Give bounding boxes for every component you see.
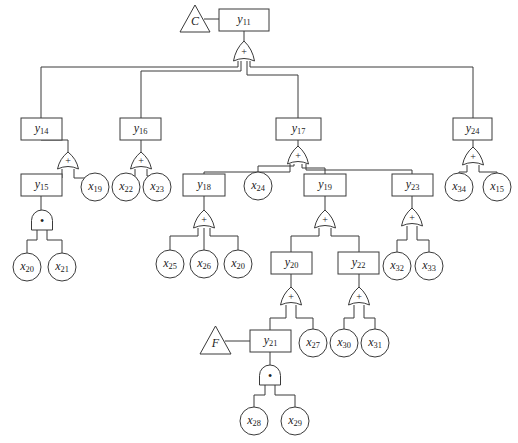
plus-symbol-icon: + xyxy=(288,291,294,302)
connector-line xyxy=(47,230,62,253)
event-box-y19: y19 xyxy=(304,174,346,196)
event-box-y22: y22 xyxy=(338,252,379,274)
basic-event-x24: x24 xyxy=(244,172,272,200)
transfer-label: F xyxy=(211,336,220,350)
connector-line xyxy=(302,164,325,174)
transfer-label: C xyxy=(191,14,200,28)
connector-line xyxy=(170,228,198,250)
plus-symbol-icon: + xyxy=(201,214,207,225)
transfer-triangle-F: F xyxy=(200,326,250,354)
basic-event-x23: x23 xyxy=(143,173,171,201)
and-gate-g21: • xyxy=(260,365,281,385)
or-gate-g18: + xyxy=(194,210,215,228)
connector-line xyxy=(210,228,238,250)
basic-event-x29: x29 xyxy=(281,407,309,435)
basic-event-x21: x21 xyxy=(48,253,76,281)
event-box-y15: y15 xyxy=(21,174,62,196)
event-box-y18: y18 xyxy=(183,174,225,196)
connector-line xyxy=(344,305,354,329)
basic-event-x22: x22 xyxy=(112,173,140,201)
or-gate-g17: + xyxy=(288,146,309,164)
or-gate-g19: + xyxy=(315,210,336,228)
connector-line xyxy=(459,165,467,173)
event-box-y14: y14 xyxy=(21,118,62,140)
plus-symbol-icon: + xyxy=(356,291,362,302)
basic-event-x31: x31 xyxy=(361,329,389,357)
basic-events: x19x22x23x20x21x24x25x26x20x32x33x34x15x… xyxy=(13,172,511,435)
basic-event-x20b: x20 xyxy=(224,250,252,278)
or-gate-g20: + xyxy=(281,287,302,305)
transfer-triangle-C: C xyxy=(180,5,219,32)
connector-line xyxy=(296,305,313,329)
or-gate-g14: + xyxy=(58,152,79,169)
connector-line xyxy=(417,226,429,252)
basic-event-x15: x15 xyxy=(483,173,511,201)
connector-line xyxy=(27,230,37,253)
basic-event-x32: x32 xyxy=(383,252,411,280)
basic-event-x27: x27 xyxy=(299,329,327,357)
event-box-y17: y17 xyxy=(276,118,321,140)
connector-line xyxy=(479,165,497,173)
plus-symbol-icon: + xyxy=(409,212,415,223)
connector-line xyxy=(397,226,407,252)
event-box-y23: y23 xyxy=(392,174,433,196)
basic-event-x26: x26 xyxy=(190,250,218,278)
plus-symbol-icon: + xyxy=(138,155,144,166)
or-gate-g11: + xyxy=(234,41,255,61)
plus-symbol-icon: + xyxy=(295,150,301,161)
connector-line xyxy=(291,228,319,252)
plus-symbol-icon: + xyxy=(241,46,247,57)
connector-line xyxy=(258,164,294,172)
connector-line xyxy=(250,61,473,118)
connector-line xyxy=(331,228,359,252)
connector-line xyxy=(306,164,412,174)
event-box-y24: y24 xyxy=(453,118,492,140)
or-gate-g23: + xyxy=(402,208,423,226)
basic-event-x19: x19 xyxy=(81,173,109,201)
plus-symbol-icon: + xyxy=(65,155,71,166)
connector-line xyxy=(41,61,238,118)
or-gate-g22: + xyxy=(349,287,370,305)
dot-symbol-icon: • xyxy=(40,214,44,228)
and-gate-g15: • xyxy=(32,210,53,230)
event-box-y16: y16 xyxy=(120,118,161,140)
fault-tree-diagram: +++++•+++++• y11y14y16y17y24y15y18y19y23… xyxy=(0,0,518,443)
event-box-y21: y21 xyxy=(250,330,291,352)
connector-line xyxy=(270,305,286,330)
connector-line xyxy=(254,385,265,407)
connector-line xyxy=(364,305,375,329)
connector-line xyxy=(247,61,298,118)
plus-symbol-icon: + xyxy=(322,214,328,225)
basic-event-x33: x33 xyxy=(415,252,443,280)
basic-event-x28: x28 xyxy=(240,407,268,435)
or-gate-g24: + xyxy=(463,147,484,165)
event-box-y11: y11 xyxy=(219,9,269,31)
basic-event-x34: x34 xyxy=(445,173,473,201)
dot-symbol-icon: • xyxy=(268,369,272,383)
plus-symbol-icon: + xyxy=(470,151,476,162)
or-gate-g16: + xyxy=(131,152,152,169)
basic-event-x25: x25 xyxy=(156,250,184,278)
connector-line xyxy=(275,385,295,407)
connector-line xyxy=(141,61,241,118)
event-box-y20: y20 xyxy=(271,252,312,274)
basic-event-x30: x30 xyxy=(330,329,358,357)
basic-event-x20a: x20 xyxy=(13,253,41,281)
